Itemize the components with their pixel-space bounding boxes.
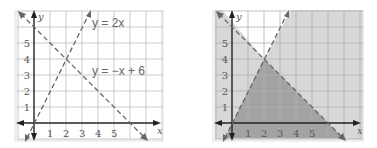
svg-text:4: 4 — [24, 54, 30, 65]
svg-text:1: 1 — [245, 128, 251, 139]
x-axis-label: x — [357, 125, 363, 136]
right-graph: 1 2 3 4 5 1 2 3 4 5 x y — [198, 0, 377, 148]
svg-text:3: 3 — [24, 70, 30, 81]
svg-text:4: 4 — [293, 128, 299, 139]
y-axis-label: y — [235, 11, 242, 22]
svg-text:3: 3 — [79, 128, 85, 139]
svg-text:3: 3 — [222, 70, 228, 81]
svg-text:2: 2 — [261, 128, 267, 139]
svg-text:2: 2 — [24, 86, 30, 97]
svg-text:5: 5 — [222, 38, 228, 49]
svg-text:5: 5 — [309, 128, 315, 139]
equation-label-1: y = 2x — [92, 16, 124, 30]
svg-text:1: 1 — [222, 102, 228, 113]
x-axis-label: x — [157, 125, 163, 136]
svg-text:1: 1 — [24, 102, 30, 113]
svg-text:5: 5 — [111, 128, 117, 139]
svg-text:2: 2 — [63, 128, 69, 139]
svg-text:3: 3 — [277, 128, 283, 139]
svg-text:5: 5 — [24, 38, 30, 49]
equation-label-2: y = −x + 6 — [92, 64, 145, 78]
left-graph: 1 2 3 4 5 1 2 3 4 5 x y y = 2x y = −x + … — [0, 0, 188, 148]
svg-text:4: 4 — [95, 128, 101, 139]
svg-text:2: 2 — [222, 86, 228, 97]
y-axis-label: y — [37, 11, 44, 22]
svg-text:1: 1 — [47, 128, 53, 139]
svg-text:4: 4 — [222, 54, 228, 65]
